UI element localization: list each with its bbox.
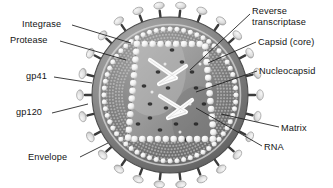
gp120-knob <box>132 6 144 16</box>
matrix-granule <box>123 107 125 109</box>
matrix-bead <box>123 142 128 147</box>
matrix-granule <box>128 69 130 71</box>
matrix-granule <box>109 92 111 94</box>
matrix-granule <box>215 107 217 109</box>
matrix-granule <box>220 94 222 96</box>
matrix-bead <box>206 146 211 151</box>
matrix-granule <box>187 36 189 38</box>
gp120-knob <box>244 47 255 59</box>
capsid-bead <box>165 41 172 48</box>
capsid-bead <box>181 41 188 48</box>
matrix-bead <box>105 113 110 118</box>
matrix-granule <box>185 143 187 145</box>
matrix-granule <box>119 59 121 61</box>
capsid-bead <box>131 72 138 79</box>
matrix-granule <box>193 149 195 151</box>
matrix-bead <box>194 32 199 37</box>
matrix-bead <box>114 131 119 136</box>
gp120-knob <box>154 2 165 10</box>
matrix-granule <box>115 97 117 99</box>
matrix-granule <box>225 72 227 74</box>
capsid-bead <box>129 88 136 95</box>
matrix-granule <box>226 97 228 99</box>
matrix-granule <box>221 78 223 80</box>
matrix-granule <box>119 123 121 125</box>
matrix-granule <box>149 151 151 153</box>
matrix-granule <box>119 104 121 106</box>
matrix-granule <box>177 141 179 143</box>
matrix-granule <box>222 104 224 106</box>
matrix-bead <box>233 99 238 104</box>
matrix-granule <box>219 116 221 118</box>
matrix-granule <box>227 78 229 80</box>
matrix-granule <box>122 104 124 106</box>
nucleocapsid-dot <box>190 70 195 73</box>
matrix-bead <box>147 30 152 35</box>
matrix-granule <box>123 116 125 118</box>
matrix-granule <box>223 91 225 93</box>
matrix-granule <box>155 146 157 148</box>
matrix-granule <box>217 94 219 96</box>
matrix-granule <box>162 154 164 156</box>
matrix-granule <box>118 97 120 99</box>
matrix-granule <box>225 130 227 132</box>
core-speck <box>179 131 182 134</box>
capsid-bead <box>194 136 201 143</box>
capsid-bead <box>125 134 132 141</box>
matrix-granule <box>121 94 123 96</box>
nucleocapsid-dot <box>136 122 141 125</box>
matrix-granule <box>217 91 219 93</box>
matrix-granule <box>165 154 167 156</box>
matrix-granule <box>190 37 192 39</box>
matrix-bead <box>181 28 186 33</box>
matrix-bead <box>212 142 217 147</box>
matrix-granule <box>232 103 234 105</box>
matrix-granule <box>118 75 120 77</box>
matrix-granule <box>119 116 121 118</box>
matrix-granule <box>171 34 173 36</box>
nucleocapsid-dot <box>148 102 153 105</box>
capsid-bead <box>131 64 138 71</box>
matrix-granule <box>184 152 186 154</box>
matrix-granule <box>115 94 117 96</box>
matrix-granule <box>164 40 166 42</box>
nucleocapsid-dot <box>142 84 147 87</box>
matrix-granule <box>217 97 219 99</box>
matrix-granule <box>180 147 182 149</box>
matrix-granule <box>112 74 114 76</box>
capsid-bead <box>130 80 137 87</box>
capsid-bead <box>157 41 164 48</box>
matrix-granule <box>217 88 219 90</box>
matrix-granule <box>122 66 124 68</box>
label-envelope: Envelope <box>28 152 67 163</box>
matrix-bead <box>110 60 115 65</box>
gp41-leader <box>54 77 92 83</box>
matrix-granule <box>117 71 119 73</box>
matrix-bead <box>102 99 107 104</box>
matrix-granule <box>179 150 181 152</box>
matrix-granule <box>165 34 167 36</box>
matrix-granule <box>124 119 126 121</box>
matrix-granule <box>208 44 210 46</box>
matrix-granule <box>118 113 120 115</box>
matrix-granule <box>171 40 173 42</box>
gp120-knob <box>175 2 186 10</box>
capsid-bead <box>202 43 209 50</box>
matrix-granule <box>220 91 222 93</box>
matrix-granule <box>108 111 110 113</box>
capsid-bead <box>205 74 212 81</box>
matrix-granule <box>117 117 119 119</box>
matrix-granule <box>177 148 179 150</box>
matrix-granule <box>212 67 214 69</box>
matrix-granule <box>111 77 113 79</box>
matrix-granule <box>139 143 141 145</box>
gp120-knob <box>175 180 186 188</box>
matrix-granule <box>223 66 225 68</box>
matrix-granule <box>223 88 225 90</box>
matrix-granule <box>185 149 187 151</box>
capsid-bead <box>132 56 139 63</box>
matrix-granule <box>216 113 218 115</box>
matrix-granule <box>220 97 222 99</box>
matrix-granule <box>182 38 184 40</box>
matrix-granule <box>109 89 111 91</box>
